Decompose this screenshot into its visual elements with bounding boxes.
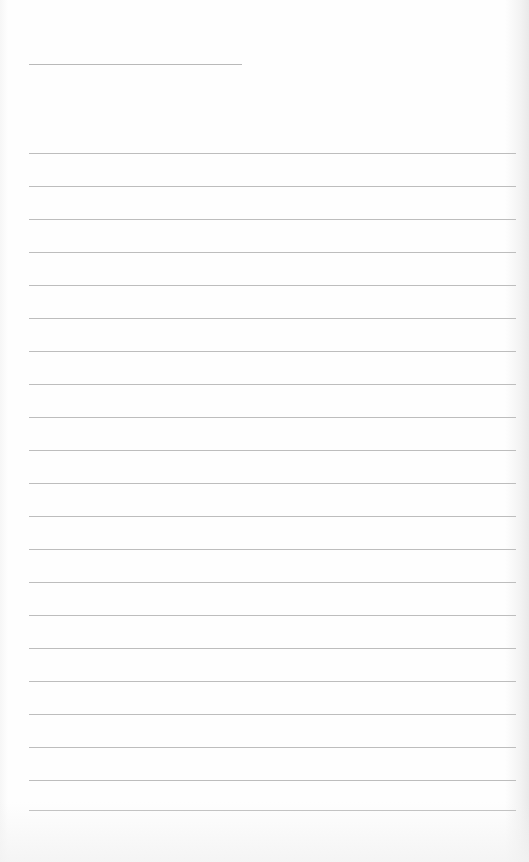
ruled-line: [29, 747, 516, 748]
ruled-line: [29, 417, 516, 418]
ruled-line: [29, 549, 516, 550]
ruled-line: [29, 318, 516, 319]
ruled-line: [29, 681, 516, 682]
ruled-line: [29, 483, 516, 484]
ruled-line: [29, 219, 516, 220]
ruled-line: [29, 351, 516, 352]
ruled-line: [29, 252, 516, 253]
lined-paper-page: [0, 0, 529, 862]
ruled-line: [29, 384, 516, 385]
ruled-line: [29, 582, 516, 583]
ruled-line: [29, 810, 516, 811]
ruled-line: [29, 516, 516, 517]
ruled-line: [29, 780, 516, 781]
ruled-line: [29, 648, 516, 649]
title-line: [29, 64, 242, 65]
ruled-line: [29, 186, 516, 187]
ruled-line: [29, 153, 516, 154]
ruled-line: [29, 714, 516, 715]
ruled-line: [29, 285, 516, 286]
ruled-line: [29, 615, 516, 616]
ruled-line: [29, 450, 516, 451]
